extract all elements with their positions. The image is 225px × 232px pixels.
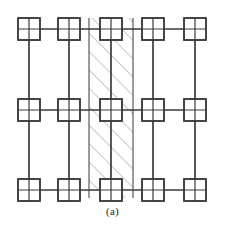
figure-caption: (a) — [0, 204, 225, 218]
structural-figure: (a) — [0, 0, 225, 232]
framing-plan-drawing — [0, 0, 225, 232]
